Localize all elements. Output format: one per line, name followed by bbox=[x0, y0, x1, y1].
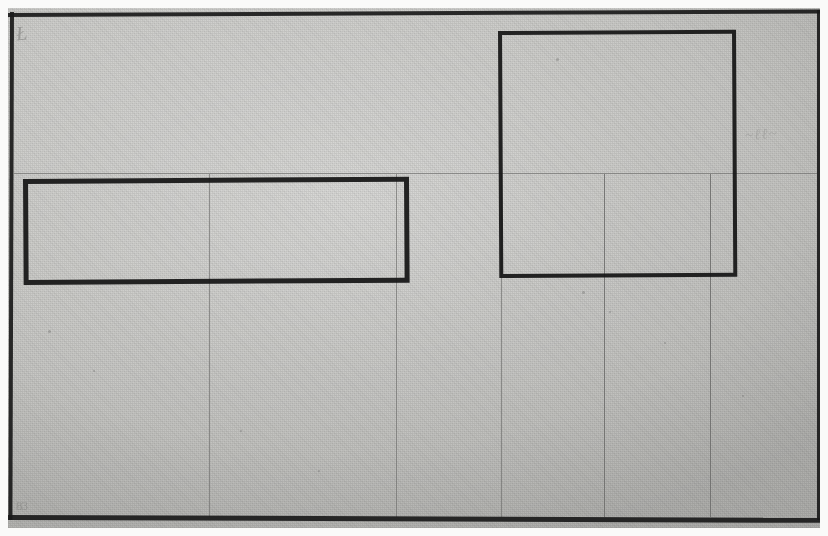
photographed-sheet: Ł 83 ~ℓℓ~ bbox=[0, 0, 828, 536]
right-edge-pencil-mark: ~ℓℓ~ bbox=[744, 125, 778, 144]
paper-speck-9 bbox=[664, 342, 666, 344]
paper-speck-8 bbox=[318, 470, 320, 472]
screenshot-canvas: Ł 83 ~ℓℓ~ bbox=[0, 0, 828, 536]
left-ink-rectangle bbox=[23, 177, 410, 285]
frame-edge-right bbox=[817, 10, 822, 520]
paper-speck-7 bbox=[742, 395, 744, 397]
frame-edge-bottom bbox=[6, 515, 821, 523]
frame-edge-left bbox=[8, 12, 14, 520]
paper-speck-3 bbox=[240, 430, 242, 432]
top-left-pencil-mark: Ł bbox=[15, 22, 26, 46]
frame-edge-top bbox=[8, 9, 820, 17]
paper-speck-2 bbox=[93, 370, 95, 372]
paper-speck-5 bbox=[582, 291, 585, 294]
bottom-left-pencil-mark: 83 bbox=[16, 498, 27, 514]
paper-speck-1 bbox=[48, 330, 51, 333]
right-ink-rectangle bbox=[498, 30, 737, 278]
paper-speck-6 bbox=[609, 311, 611, 313]
